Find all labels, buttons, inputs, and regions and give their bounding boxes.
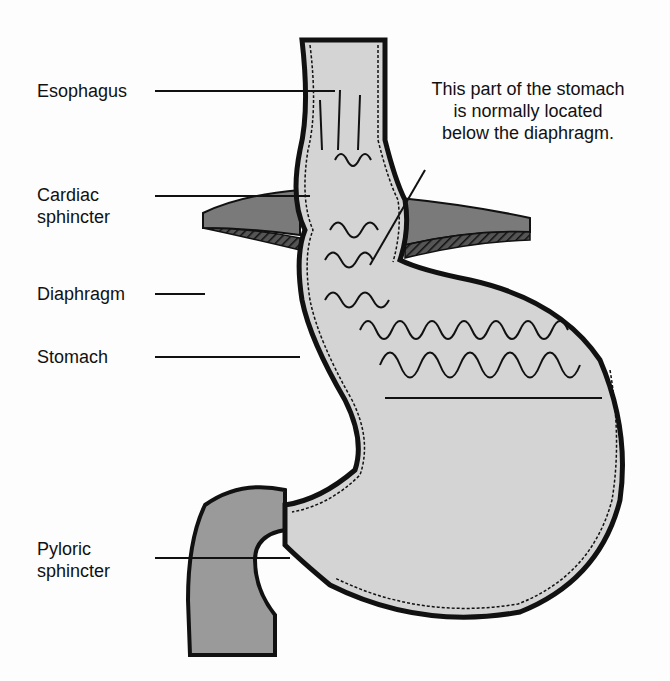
label-cardiac-line1: Cardiac — [37, 184, 110, 206]
label-cardiac-line2: sphincter — [37, 206, 110, 228]
label-cardiac-sphincter: Cardiac sphincter — [37, 184, 110, 228]
annotation-note: This part of the stomach is normally loc… — [408, 78, 648, 144]
stomach-diagram: Esophagus Cardiac sphincter Diaphragm St… — [0, 0, 670, 681]
label-pyloric-sphincter: Pyloric sphincter — [37, 538, 110, 582]
label-pyloric-line1: Pyloric — [37, 538, 110, 560]
label-diaphragm: Diaphragm — [37, 283, 125, 305]
annotation-line3: below the diaphragm. — [408, 122, 648, 144]
annotation-line2: is normally located — [408, 100, 648, 122]
label-pyloric-line2: sphincter — [37, 560, 110, 582]
annotation-line1: This part of the stomach — [408, 78, 648, 100]
duodenum-shape — [188, 487, 285, 655]
label-stomach: Stomach — [37, 346, 108, 368]
label-esophagus: Esophagus — [37, 80, 127, 102]
